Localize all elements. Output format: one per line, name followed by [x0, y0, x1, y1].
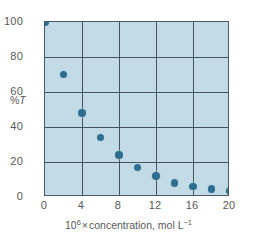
data-point — [60, 71, 67, 78]
x-axis-title-unit-exponent: −1 — [184, 218, 192, 227]
data-point — [189, 183, 196, 190]
transmittance-vs-concentration-chart: %T 100 80 60 40 20 0 0 4 8 12 16 20 106×… — [0, 0, 257, 244]
gridline-vertical — [119, 22, 120, 195]
data-point — [97, 134, 104, 141]
x-axis-title: 106×concentration, mol L−1 — [0, 219, 257, 231]
data-point — [134, 164, 141, 171]
y-tick-label: 100 — [0, 15, 23, 27]
gridline-horizontal — [45, 162, 228, 163]
multiplication-sign: × — [81, 219, 89, 231]
y-tick-label: 80 — [0, 50, 23, 62]
data-point — [208, 185, 215, 192]
data-point — [226, 187, 229, 194]
data-point — [78, 109, 85, 116]
data-point — [152, 172, 159, 179]
y-tick-label: 60 — [0, 85, 23, 97]
gridline-horizontal — [45, 57, 228, 58]
x-tick-label: 16 — [177, 199, 207, 211]
x-tick-label: 8 — [103, 199, 133, 211]
y-tick-label: 40 — [0, 120, 23, 132]
x-axis-title-base: 10 — [65, 219, 77, 231]
gridline-vertical — [156, 22, 157, 195]
x-tick-label: 20 — [214, 199, 244, 211]
gridline-horizontal — [45, 127, 228, 128]
data-point — [171, 179, 178, 186]
x-axis-title-quantity: concentration, mol L — [89, 219, 184, 231]
data-point — [44, 21, 49, 26]
plot-area — [44, 21, 229, 196]
y-tick-label: 20 — [0, 155, 23, 167]
x-tick-label: 4 — [66, 199, 96, 211]
x-tick-label: 0 — [29, 199, 59, 211]
data-point — [115, 151, 122, 158]
y-tick-label: 0 — [0, 190, 23, 202]
x-tick-label: 12 — [140, 199, 170, 211]
gridline-horizontal — [45, 92, 228, 93]
gridline-vertical — [193, 22, 194, 195]
